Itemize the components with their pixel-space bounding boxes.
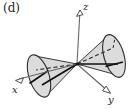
- z-axis-line: [77, 10, 80, 64]
- cone-apex-point: [75, 62, 78, 65]
- figure-panel-d: (d) z x y: [0, 0, 128, 109]
- z-axis-label: z: [83, 2, 88, 12]
- right-cone: [77, 32, 128, 80]
- panel-label: (d): [3, 2, 20, 14]
- double-cone-diagram: [0, 0, 128, 109]
- y-axis-label: y: [108, 95, 114, 105]
- x-axis-arrowhead: [16, 78, 24, 84]
- x-axis-label: x: [12, 85, 18, 95]
